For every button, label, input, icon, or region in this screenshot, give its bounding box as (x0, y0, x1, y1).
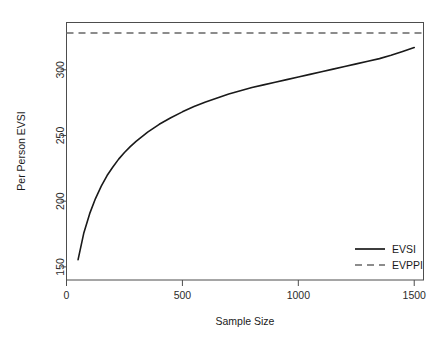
x-tick-label: 500 (174, 289, 192, 301)
evsi-line-chart: 150200250300 050010001500 Per Person EVS… (0, 0, 441, 339)
y-tick-label: 250 (54, 127, 66, 145)
y-tick-label: 150 (54, 258, 66, 276)
chart-container: 150200250300 050010001500 Per Person EVS… (0, 0, 441, 339)
x-tick-label: 0 (64, 289, 70, 301)
x-tick-label: 1000 (287, 289, 311, 301)
x-axis-title: Sample Size (216, 315, 275, 327)
y-tick-label: 300 (54, 61, 66, 79)
y-axis-title: Per Person EVSI (15, 111, 27, 190)
legend-label-evppi: EVPPI (392, 259, 423, 271)
x-tick-label: 1500 (403, 289, 427, 301)
y-tick-label: 200 (54, 192, 66, 210)
legend-label-evsi: EVSI (392, 243, 416, 255)
